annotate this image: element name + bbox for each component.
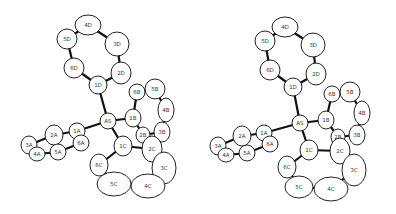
atom-label: 1D: [94, 82, 102, 88]
atom-label: 2D: [117, 70, 125, 76]
atom-label: 4B: [358, 110, 365, 116]
right-view: 4D5D3D6D2D1DAS1B6B5B4B3B2B1C2C3C4C5C6C1A…: [210, 17, 370, 201]
atom-label: 3B: [353, 132, 360, 138]
atom-label: 6C: [283, 164, 290, 170]
atom-label: 3A: [214, 143, 221, 149]
atom-label: 5C: [110, 181, 117, 187]
atom-label: AS: [104, 118, 112, 124]
atom-label: 3D: [309, 42, 317, 48]
atom-label: 2B: [139, 132, 146, 138]
molecule-diagram: 4D5D3D6D2D1DAS1B6B5B4B3B2B1C2C3C4C5C6C1A…: [0, 0, 396, 214]
atom-label: 5C: [295, 184, 302, 190]
atom-label: 4C: [144, 183, 151, 189]
atom-label: 2A: [238, 133, 245, 139]
atom-label: 4D: [281, 24, 289, 30]
atom-label: 3A: [25, 142, 32, 148]
ortep-stereo-figure: 4D5D3D6D2D1DAS1B6B5B4B3B2B1C2C3C4C5C6C1A…: [0, 0, 396, 214]
atom-label: 5A: [54, 149, 61, 155]
atom-label: AS: [296, 120, 304, 126]
atom-label: 2D: [312, 71, 320, 77]
atom-label: 1B: [322, 117, 329, 123]
atom-label: 2C: [336, 148, 343, 154]
atom-label: 1A: [73, 128, 80, 134]
atom-label: 5D: [63, 36, 71, 42]
atom-label: 6D: [70, 65, 78, 71]
left-view: 4D5D3D6D2D1DAS1B6B5B4B3B2B1C2C3C4C5C6C1A…: [21, 15, 176, 198]
atom-label: 5D: [261, 38, 269, 44]
atom-label: 3C: [160, 165, 167, 171]
atom-label: 1C: [119, 143, 126, 149]
atom-label: 4B: [162, 107, 169, 113]
atom-label: 5A: [243, 150, 250, 156]
atom-label: 1D: [289, 84, 297, 90]
atom-label: 2A: [50, 132, 57, 138]
atom-label: 1B: [129, 115, 136, 121]
atom-label: 5B: [346, 89, 353, 95]
atom-label: 4A: [222, 152, 229, 158]
atom-label: 6A: [77, 140, 84, 146]
atom-label: 1A: [260, 130, 267, 136]
atom-label: 6D: [266, 67, 274, 73]
atom-label: 6C: [95, 162, 102, 168]
atom-label: 3D: [113, 41, 121, 47]
atom-label: 4C: [327, 186, 334, 192]
atom-label: 6B: [328, 91, 335, 97]
atom-label: 6B: [133, 89, 140, 95]
atom-label: 3C: [350, 167, 357, 173]
atom-label: 1C: [305, 147, 312, 153]
atom-label: 2C: [148, 146, 155, 152]
atom-label: 3B: [158, 129, 165, 135]
atom-label: 6A: [266, 141, 273, 147]
atom-label: 5B: [151, 86, 158, 92]
atom-label: 4A: [33, 151, 40, 157]
atom-label: 4D: [84, 22, 92, 28]
